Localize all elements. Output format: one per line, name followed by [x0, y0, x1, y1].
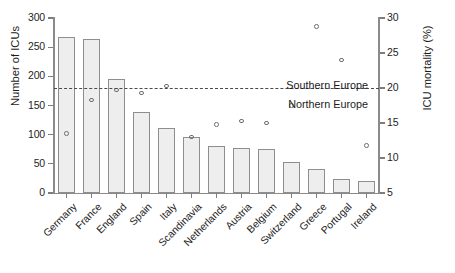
scatter-point: [264, 121, 269, 126]
right-tick-mark: [380, 17, 385, 18]
left-tick-mark: [48, 134, 53, 135]
left-tick-label: 200: [11, 69, 45, 81]
scatter-point: [239, 119, 244, 124]
northern-europe-label: Northern Europe: [238, 98, 368, 110]
x-tick-mark: [91, 193, 92, 198]
x-tick-mark: [341, 193, 342, 198]
x-tick-mark: [241, 193, 242, 198]
left-tick-mark: [48, 163, 53, 164]
bar: [308, 169, 326, 193]
left-tick-label: 250: [11, 40, 45, 52]
scatter-point: [89, 98, 94, 103]
bar: [83, 39, 101, 193]
x-tick-mark: [366, 193, 367, 198]
bar: [158, 128, 176, 193]
right-tick-label: 30: [387, 11, 421, 23]
left-tick-label: 0: [11, 186, 45, 198]
x-tick-mark: [66, 193, 67, 198]
scatter-point: [189, 135, 194, 140]
scatter-point: [64, 131, 69, 136]
left-tick-label: 150: [11, 99, 45, 111]
bar: [283, 162, 301, 193]
x-tick-mark: [291, 193, 292, 198]
scatter-point: [339, 58, 344, 63]
scatter-point: [139, 91, 144, 96]
bar: [108, 79, 126, 193]
left-tick-label: 100: [11, 128, 45, 140]
left-tick-mark: [48, 17, 53, 18]
left-tick-label: 300: [11, 11, 45, 23]
right-tick-label: 15: [387, 116, 421, 128]
bar: [133, 112, 151, 193]
right-tick-mark: [380, 192, 385, 193]
left-tick-mark: [48, 76, 53, 77]
left-tick-mark: [48, 192, 53, 193]
bar: [233, 148, 251, 194]
right-tick-label: 25: [387, 46, 421, 58]
icu-chart: Number of ICUs ICU mortality (%) 0501001…: [0, 0, 455, 273]
bar: [183, 137, 201, 193]
left-tick-mark: [48, 105, 53, 106]
right-tick-mark: [380, 52, 385, 53]
x-tick-mark: [166, 193, 167, 198]
right-axis-title: ICU mortality (%): [421, 3, 433, 133]
bar: [333, 179, 351, 193]
x-tick-mark: [216, 193, 217, 198]
right-tick-label: 5: [387, 186, 421, 198]
right-tick-label: 20: [387, 81, 421, 93]
x-tick-mark: [141, 193, 142, 198]
bar: [208, 146, 226, 193]
right-tick-mark: [380, 157, 385, 158]
right-tick-mark: [380, 122, 385, 123]
left-tick-label: 50: [11, 157, 45, 169]
scatter-point: [214, 122, 219, 127]
x-tick-mark: [116, 193, 117, 198]
x-tick-mark: [316, 193, 317, 198]
scatter-point: [314, 24, 319, 29]
scatter-point: [364, 143, 369, 148]
x-tick-mark: [191, 193, 192, 198]
bar: [358, 181, 376, 193]
right-tick-mark: [380, 87, 385, 88]
left-tick-mark: [48, 47, 53, 48]
bar: [258, 149, 276, 193]
x-tick-mark: [266, 193, 267, 198]
right-tick-label: 10: [387, 151, 421, 163]
southern-europe-label: Southern Europe: [238, 79, 368, 91]
bar: [58, 37, 76, 193]
